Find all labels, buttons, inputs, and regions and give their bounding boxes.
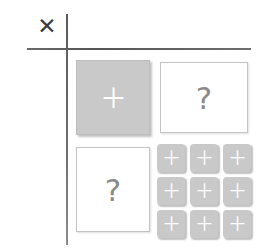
mini-plus-tile[interactable]: ＋ [190,210,218,238]
question-mark-icon: ? [161,82,247,113]
plus-icon: ＋ [190,215,218,234]
x-mark-icon: ✕ [36,14,58,38]
mini-plus-tile[interactable]: ＋ [190,144,218,172]
question-mark-icon: ? [77,174,149,205]
plus-icon: ＋ [223,182,251,201]
mini-plus-tile[interactable]: ＋ [157,144,185,172]
plus-icon: ＋ [77,84,149,111]
plus-icon: ＋ [190,182,218,201]
mini-plus-tile[interactable]: ＋ [223,144,251,172]
cell-top-left-plus-tile[interactable]: ＋ [76,60,150,135]
cell-top-right-question-tile[interactable]: ? [160,62,248,133]
plus-icon: ＋ [157,149,185,168]
plus-icon: ＋ [223,149,251,168]
diagram-canvas: ✕ ＋ ? ? ＋＋＋＋＋＋＋＋＋ [0,0,262,252]
plus-icon: ＋ [190,149,218,168]
cell-bottom-right-plus-grid: ＋＋＋＋＋＋＋＋＋ [157,144,251,238]
plus-icon: ＋ [223,215,251,234]
plus-icon: ＋ [157,182,185,201]
mini-plus-tile[interactable]: ＋ [157,177,185,205]
horizontal-axis-line [27,48,251,50]
mini-plus-tile[interactable]: ＋ [223,210,251,238]
mini-plus-tile[interactable]: ＋ [190,177,218,205]
plus-icon: ＋ [157,215,185,234]
mini-plus-tile[interactable]: ＋ [157,210,185,238]
mini-plus-tile[interactable]: ＋ [223,177,251,205]
cell-bottom-left-question-tile[interactable]: ? [76,147,150,232]
